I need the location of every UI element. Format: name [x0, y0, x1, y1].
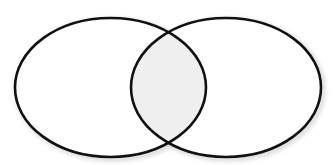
venn-diagram: [0, 0, 333, 165]
venn-diagram-svg: [0, 0, 333, 165]
